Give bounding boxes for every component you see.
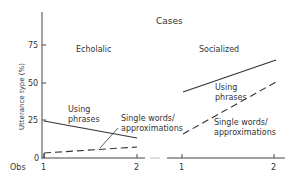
label-echolalic-phrases-1: Using	[68, 105, 90, 114]
label-echolalic-single-2: approximations	[121, 124, 183, 133]
y-tick-label-25: 25	[28, 116, 38, 125]
y-axis-label: Utterance type (%)	[18, 63, 26, 130]
panel-title-echolalic: Echolalic	[76, 45, 111, 54]
label-socialized-phrases-2: phrases	[215, 93, 247, 102]
panel-title-socialized: Socialized	[199, 45, 239, 54]
chart-title: Cases	[156, 16, 183, 26]
x-tick-label-left-1: 1	[41, 163, 46, 172]
x-tick-label-left-2: 2	[134, 163, 139, 172]
line-echolalic-single-words	[44, 147, 137, 153]
label-echolalic-phrases-2: phrases	[68, 115, 100, 124]
label-socialized-phrases-1: Using	[215, 83, 237, 92]
label-socialized-single-2: approximations	[214, 128, 276, 137]
leader-line	[100, 128, 118, 148]
y-tick-label-50: 50	[28, 79, 38, 88]
x-axis-label: Obs	[10, 163, 26, 172]
label-socialized-single-1: Single words/	[214, 118, 268, 127]
y-tick-label-75: 75	[28, 41, 38, 50]
x-tick-label-right-2: 2	[271, 163, 276, 172]
label-echolalic-single-1: Single words/	[121, 114, 175, 123]
chart: Cases 75 50 25 0 Utterance type (%) Obs …	[0, 0, 300, 183]
x-tick-label-right-1: 1	[179, 163, 184, 172]
y-tick-label-0: 0	[34, 154, 39, 163]
